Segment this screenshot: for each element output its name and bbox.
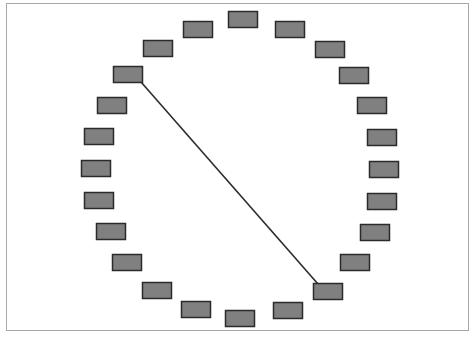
node-box: [361, 225, 390, 241]
node-box: [274, 303, 303, 319]
node-box: [314, 284, 343, 300]
node-box: [276, 22, 305, 38]
node-box: [184, 22, 213, 38]
node-box: [97, 224, 126, 240]
node-box: [368, 194, 397, 210]
node-box: [182, 302, 211, 318]
node-box: [368, 130, 397, 146]
node-box: [114, 67, 143, 83]
ring-diagram: [0, 0, 476, 339]
node-box: [358, 98, 387, 114]
node-box: [229, 12, 258, 28]
edges-layer: [141, 82, 318, 284]
node-box: [143, 283, 172, 299]
node-box: [316, 42, 345, 58]
node-box: [144, 41, 173, 57]
node-box: [226, 311, 255, 327]
node-box: [98, 98, 127, 114]
node-box: [82, 161, 111, 177]
node-box: [341, 255, 370, 271]
node-box: [85, 193, 114, 209]
node-box: [85, 129, 114, 145]
node-box: [113, 255, 142, 271]
node-box: [370, 162, 399, 178]
node-box: [340, 68, 369, 84]
edge-line: [141, 82, 318, 284]
nodes-layer: [82, 12, 399, 327]
